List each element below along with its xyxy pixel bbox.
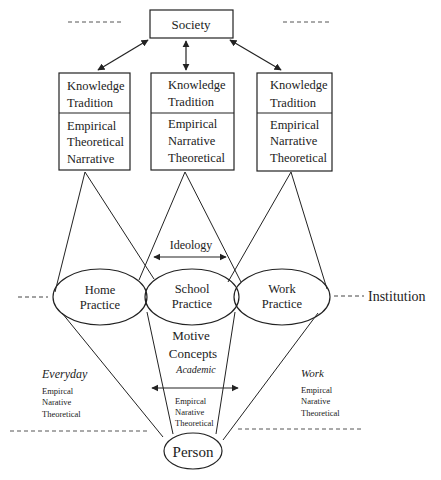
practice-label: Practice — [172, 297, 213, 311]
cone-lines-upper — [55, 172, 327, 292]
arrow-society-left — [98, 40, 148, 70]
kb-item: Theoretical — [67, 135, 124, 149]
practice-label: School — [175, 282, 210, 296]
list-item: Empircal — [42, 386, 74, 396]
person-label: Person — [173, 444, 214, 460]
kb-item: Narrative — [168, 134, 216, 148]
knowledge-box-right: Knowledge Tradition Empirical Narrative … — [257, 73, 332, 171]
kb-subtitle: Tradition — [270, 96, 317, 110]
academic-list: Empircal Narative Theoretical — [175, 396, 214, 428]
kb-title: Knowledge — [168, 78, 226, 92]
institution-label: Institution — [368, 289, 426, 304]
practice-school: School Practice — [145, 269, 239, 325]
kb-item: Empirical — [67, 119, 117, 133]
everyday-label: Everyday — [41, 367, 88, 381]
knowledge-diagram: Society Knowledge Tradition Empirical Th… — [0, 0, 441, 480]
practice-label: Practice — [80, 298, 121, 312]
knowledge-box-middle: Knowledge Tradition Empirical Narrative … — [151, 73, 234, 170]
list-item: Narative — [42, 397, 71, 407]
work-group: Work Empircal Narative Theoretical — [301, 367, 340, 418]
concepts-label: Concepts — [169, 346, 217, 361]
arrow-society-right — [230, 40, 281, 70]
everyday-group: Everyday Empircal Narative Theoretical — [41, 367, 88, 419]
kb-subtitle: Tradition — [67, 96, 114, 110]
kb-item: Narrative — [67, 152, 115, 166]
practice-label: Practice — [262, 297, 303, 311]
knowledge-box-left: Knowledge Tradition Empirical Theoretica… — [59, 73, 130, 170]
list-item: Empircal — [301, 385, 333, 395]
work-label: Work — [301, 367, 325, 379]
academic-label: Academic — [175, 364, 216, 375]
practice-home: Home Practice — [53, 269, 147, 325]
kb-subtitle: Tradition — [168, 95, 215, 109]
ideology-label: Ideology — [170, 238, 213, 252]
list-item: Theoretical — [42, 409, 81, 419]
list-item: Narative — [175, 407, 204, 417]
motive-label: Motive — [172, 328, 210, 343]
practice-label: Work — [268, 282, 296, 296]
list-item: Theoretical — [175, 418, 214, 428]
list-item: Theoretical — [301, 408, 340, 418]
society-box: Society — [150, 10, 233, 38]
list-item: Narative — [301, 396, 330, 406]
list-item: Empircal — [175, 396, 207, 406]
kb-title: Knowledge — [270, 78, 328, 92]
kb-item: Empirical — [270, 118, 320, 132]
person-node: Person — [164, 433, 222, 469]
kb-item: Theoretical — [168, 151, 225, 165]
society-label: Society — [172, 17, 211, 32]
kb-item: Empirical — [168, 117, 218, 131]
kb-item: Narrative — [270, 134, 318, 148]
kb-title: Knowledge — [67, 79, 125, 93]
kb-item: Theoretical — [270, 151, 327, 165]
practice-label: Home — [85, 283, 116, 297]
